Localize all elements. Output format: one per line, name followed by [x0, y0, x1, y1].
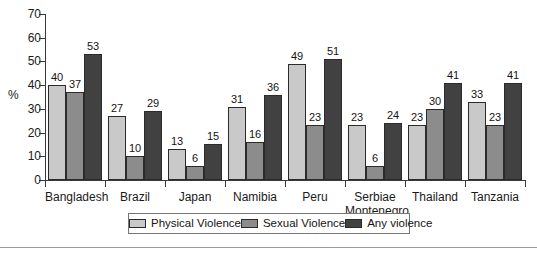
- bar: 41: [504, 83, 522, 180]
- x-axis-category-label: Bangladesh: [45, 190, 105, 204]
- bar: 6: [366, 166, 384, 180]
- bar-value-label: 15: [207, 130, 219, 143]
- y-axis-tick-label: 30: [28, 101, 41, 117]
- bar-value-label: 41: [507, 69, 519, 82]
- x-axis-category-label: Brazil: [105, 190, 165, 204]
- x-axis-category-label: Japan: [165, 190, 225, 204]
- x-axis-category-label-line: Brazil: [120, 190, 150, 204]
- bar: 24: [384, 123, 402, 180]
- x-axis-tick: [405, 181, 406, 187]
- bar-value-label: 29: [147, 97, 159, 110]
- bar-value-label: 23: [351, 111, 363, 124]
- chart-legend: Physical ViolenceSexual ViolenceAny viol…: [128, 213, 410, 234]
- bar-value-label: 10: [129, 142, 141, 155]
- x-axis-category-label-line: Japan: [179, 190, 212, 204]
- legend-swatch: [345, 219, 362, 228]
- legend-swatch: [129, 219, 146, 228]
- bar-value-label: 23: [411, 111, 423, 124]
- bar: 31: [228, 107, 246, 181]
- bar-group: 23624: [345, 14, 405, 180]
- legend-label: Sexual Violence: [263, 217, 345, 230]
- bar: 53: [84, 54, 102, 180]
- legend-swatch: [241, 219, 258, 228]
- y-axis-tick-label: 70: [28, 6, 41, 22]
- bar-group: 403753: [45, 14, 105, 180]
- bar-value-label: 27: [111, 102, 123, 115]
- x-axis-tick: [105, 181, 106, 187]
- x-axis-category-label: Thailand: [405, 190, 465, 204]
- bar-group-bars: 332341: [465, 14, 525, 180]
- legend-label: Any violence: [367, 217, 432, 230]
- bar-group: 311636: [225, 14, 285, 180]
- x-axis-tick: [525, 181, 526, 187]
- bar-group: 492351: [285, 14, 345, 180]
- bar: 36: [264, 95, 282, 180]
- bar-value-label: 41: [447, 69, 459, 82]
- bar-group: 332341: [465, 14, 525, 180]
- bar: 51: [324, 59, 342, 180]
- bar-value-label: 51: [327, 45, 339, 58]
- bar-value-label: 23: [489, 111, 501, 124]
- legend-label: Physical Violence: [151, 217, 241, 230]
- bar: 37: [66, 92, 84, 180]
- bar: 30: [426, 109, 444, 180]
- bar-group-bars: 233041: [405, 14, 465, 180]
- bar-group-bars: 403753: [45, 14, 105, 180]
- x-axis-tick: [45, 181, 46, 187]
- bar-value-label: 33: [471, 88, 483, 101]
- bar-value-label: 23: [309, 111, 321, 124]
- legend-item: Any violence: [345, 217, 432, 230]
- bar-group-bars: 23624: [345, 14, 405, 180]
- bar: 29: [144, 111, 162, 180]
- x-axis-category-label-line: Serbiae: [354, 190, 395, 204]
- bar: 15: [204, 144, 222, 180]
- bar: 23: [408, 125, 426, 180]
- x-axis-tick: [285, 181, 286, 187]
- bar: 27: [108, 116, 126, 180]
- bar: 40: [48, 85, 66, 180]
- x-axis-category-label: Namibia: [225, 190, 285, 204]
- x-axis-category-label-line: Namibia: [233, 190, 277, 204]
- bar-value-label: 30: [429, 95, 441, 108]
- x-axis-tick: [465, 181, 466, 187]
- bar-value-label: 24: [387, 109, 399, 122]
- x-axis-category-label-line: Tanzania: [471, 190, 519, 204]
- bar-value-label: 49: [291, 50, 303, 63]
- bar-value-label: 6: [372, 152, 378, 165]
- bar-group-bars: 311636: [225, 14, 285, 180]
- bar-chart-figure: % 010203040506070 4037532710291361531163…: [0, 0, 537, 258]
- bar-group: 13615: [165, 14, 225, 180]
- bar-group-bars: 13615: [165, 14, 225, 180]
- bar-group: 271029: [105, 14, 165, 180]
- bar: 23: [306, 125, 324, 180]
- bar: 6: [186, 166, 204, 180]
- bar: 23: [348, 125, 366, 180]
- x-axis-tick: [165, 181, 166, 187]
- bar: 13: [168, 149, 186, 180]
- legend-item: Physical Violence: [129, 217, 241, 230]
- y-axis-tick-label: 0: [34, 172, 41, 188]
- plot-area: 4037532710291361531163649235123624233041…: [45, 14, 525, 180]
- bar-value-label: 6: [192, 152, 198, 165]
- bar-value-label: 36: [267, 81, 279, 94]
- y-axis-tick-label: 10: [28, 148, 41, 164]
- bar: 41: [444, 83, 462, 180]
- bar-group: 233041: [405, 14, 465, 180]
- bar: 49: [288, 64, 306, 180]
- bar-value-label: 53: [87, 40, 99, 53]
- y-axis-tick-label: 40: [28, 77, 41, 93]
- y-axis-tick-label: 50: [28, 53, 41, 69]
- bar-value-label: 31: [231, 93, 243, 106]
- bar-value-label: 16: [249, 128, 261, 141]
- y-axis-tick-label: 60: [28, 30, 41, 46]
- x-axis-tick: [225, 181, 226, 187]
- y-axis-tick-label: 20: [28, 125, 41, 141]
- bar-value-label: 37: [69, 78, 81, 91]
- x-axis-category-label-line: Peru: [302, 190, 327, 204]
- bar: 23: [486, 125, 504, 180]
- bar-group-bars: 271029: [105, 14, 165, 180]
- bar-group-bars: 492351: [285, 14, 345, 180]
- legend-item: Sexual Violence: [241, 217, 345, 230]
- bar-value-label: 40: [51, 71, 63, 84]
- bar: 33: [468, 102, 486, 180]
